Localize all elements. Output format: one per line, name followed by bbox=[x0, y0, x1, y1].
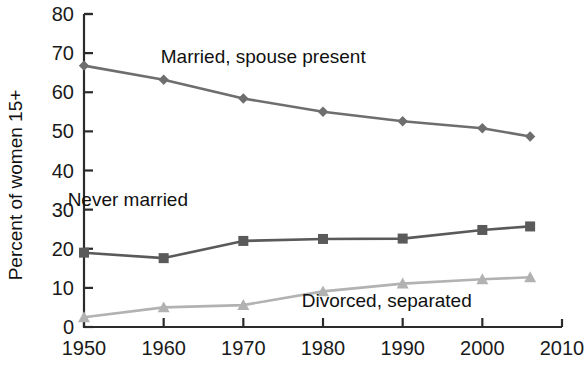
chart-container: Percent of women 15+ 01020304050607080 1… bbox=[0, 0, 587, 370]
x-axis-ticks: 1950196019701980199020002010 bbox=[62, 318, 585, 359]
data-point-square bbox=[159, 253, 169, 263]
y-axis-title-text: Percent of women 15+ bbox=[5, 90, 26, 281]
y-tick-label: 80 bbox=[52, 3, 74, 25]
y-tick-label: 50 bbox=[52, 120, 74, 142]
data-point-diamond bbox=[238, 93, 248, 103]
y-axis-title: Percent of women 15+ bbox=[5, 90, 26, 281]
series-line bbox=[84, 226, 530, 258]
data-point-square bbox=[477, 225, 487, 235]
x-tick-label: 2000 bbox=[460, 337, 505, 359]
series-annotation-3: Divorced, separated bbox=[302, 290, 472, 311]
y-tick-label: 40 bbox=[52, 160, 74, 182]
x-tick-label: 1950 bbox=[62, 337, 107, 359]
series-2 bbox=[79, 221, 535, 263]
data-point-diamond bbox=[158, 75, 168, 85]
x-tick-label: 1990 bbox=[380, 337, 425, 359]
data-point-square bbox=[318, 234, 328, 244]
series-annotations: Married, spouse presentNever marriedDivo… bbox=[68, 46, 472, 312]
series-annotation-1: Married, spouse present bbox=[161, 46, 367, 67]
data-point-diamond bbox=[477, 123, 487, 133]
y-tick-label: 10 bbox=[52, 277, 74, 299]
data-point-square bbox=[398, 234, 408, 244]
series-line bbox=[84, 66, 530, 137]
y-tick-label: 20 bbox=[52, 238, 74, 260]
x-tick-label: 1970 bbox=[221, 337, 266, 359]
y-axis-ticks: 01020304050607080 bbox=[52, 3, 93, 338]
series-annotation-2: Never married bbox=[68, 189, 188, 210]
series-1 bbox=[79, 60, 536, 141]
y-tick-label: 70 bbox=[52, 42, 74, 64]
data-point-diamond bbox=[397, 116, 407, 126]
data-point-diamond bbox=[525, 131, 535, 141]
data-point-square bbox=[238, 236, 248, 246]
line-chart: Percent of women 15+ 01020304050607080 1… bbox=[0, 0, 587, 370]
data-point-square bbox=[525, 221, 535, 231]
data-point-diamond bbox=[79, 60, 89, 70]
x-tick-label: 1960 bbox=[141, 337, 186, 359]
data-point-diamond bbox=[318, 107, 328, 117]
y-tick-label: 0 bbox=[63, 316, 74, 338]
x-tick-label: 2010 bbox=[540, 337, 585, 359]
data-point-square bbox=[79, 248, 89, 258]
x-tick-label: 1980 bbox=[301, 337, 346, 359]
y-tick-label: 60 bbox=[52, 81, 74, 103]
